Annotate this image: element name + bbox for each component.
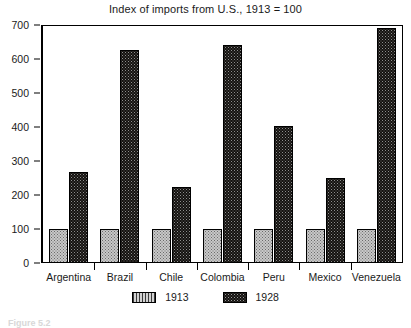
bar-argentina-1913 xyxy=(49,229,68,263)
x-axis-tick-mark xyxy=(299,263,300,270)
bar-brazil-1913 xyxy=(100,229,119,263)
y-axis-tick-label: 600 xyxy=(11,53,29,65)
bar-colombia-1928 xyxy=(223,45,242,263)
y-axis-tick-mark xyxy=(34,59,40,60)
bar-argentina-1928 xyxy=(69,172,88,263)
y-axis-tick-label: 400 xyxy=(11,121,29,133)
chart-title: Index of imports from U.S., 1913 = 100 xyxy=(0,3,411,15)
x-axis-label-chile: Chile xyxy=(159,271,183,283)
bar-mexico-1928 xyxy=(326,178,345,263)
bar-venezuela-1928 xyxy=(377,28,396,263)
bar-group xyxy=(248,25,299,263)
bar-venezuela-1913 xyxy=(357,229,376,263)
x-axis-tick-mark xyxy=(94,263,95,270)
x-axis-tick-mark xyxy=(351,263,352,270)
legend-swatch-1913 xyxy=(132,292,156,303)
bar-peru-1928 xyxy=(274,126,293,263)
bar-group xyxy=(299,25,350,263)
legend-label-1928: 1928 xyxy=(256,291,279,303)
bar-group xyxy=(43,25,94,263)
bar-group xyxy=(94,25,145,263)
y-axis-tick-label: 500 xyxy=(11,87,29,99)
x-axis: ArgentinaBrazilChileColombiaPeruMexicoVe… xyxy=(0,271,411,287)
bar-chile-1913 xyxy=(152,229,171,263)
figure-caption: Figure 5.2 xyxy=(8,318,51,328)
legend-label-1913: 1913 xyxy=(165,291,188,303)
y-axis-tick-mark xyxy=(34,127,40,128)
x-axis-label-peru: Peru xyxy=(263,271,285,283)
x-axis-label-venezuela: Venezuela xyxy=(352,271,401,283)
bar-brazil-1928 xyxy=(120,50,139,263)
x-axis-tick-mark xyxy=(146,263,147,270)
x-axis-tick-mark xyxy=(197,263,198,270)
y-axis-tick-label: 100 xyxy=(11,223,29,235)
x-axis-label-argentina: Argentina xyxy=(46,271,91,283)
y-axis-tick-label: 0 xyxy=(23,257,29,269)
y-axis-tick-mark xyxy=(34,229,40,230)
legend-item-1913: 1913 xyxy=(132,291,188,303)
bar-chile-1928 xyxy=(172,187,191,264)
bar-peru-1913 xyxy=(254,229,273,263)
bar-mexico-1913 xyxy=(306,229,325,263)
legend-swatch-1928 xyxy=(223,292,247,303)
y-axis-tick-mark xyxy=(34,93,40,94)
y-axis-tick-mark xyxy=(34,263,40,264)
y-axis-tick-label: 700 xyxy=(11,19,29,31)
bar-group xyxy=(351,25,402,263)
bar-colombia-1913 xyxy=(203,229,222,263)
x-axis-tick-mark xyxy=(248,263,249,270)
y-axis-tick-mark xyxy=(34,25,40,26)
chart-legend: 19131928 xyxy=(0,291,411,303)
x-axis-label-colombia: Colombia xyxy=(200,271,244,283)
legend-item-1928: 1928 xyxy=(223,291,279,303)
bar-group xyxy=(146,25,197,263)
y-axis-tick-mark xyxy=(34,195,40,196)
x-axis-label-mexico: Mexico xyxy=(308,271,341,283)
y-axis-tick-mark xyxy=(34,161,40,162)
bars-layer xyxy=(43,25,402,263)
y-axis-tick-label: 200 xyxy=(11,189,29,201)
y-axis-tick-label: 300 xyxy=(11,155,29,167)
x-axis-label-brazil: Brazil xyxy=(107,271,133,283)
bar-group xyxy=(197,25,248,263)
